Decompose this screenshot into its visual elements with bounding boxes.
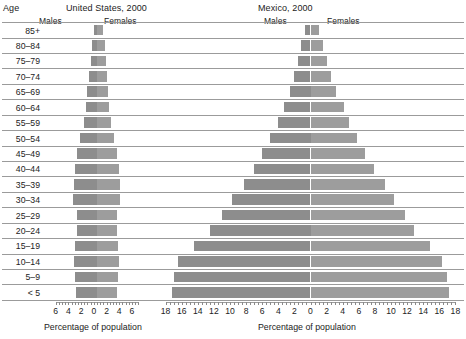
us-female-bar — [97, 225, 117, 236]
age-group-label: 40–44 — [0, 164, 40, 174]
mexico-male-bar — [244, 179, 311, 190]
mexico-female-bar — [311, 256, 442, 267]
axis-tick-label: 10 — [383, 306, 399, 316]
axis-tick-label: 2 — [319, 306, 335, 316]
us-male-bar — [75, 272, 97, 283]
axis-tick — [246, 302, 247, 305]
age-group-label: 70–74 — [0, 72, 40, 82]
age-group-label: 85+ — [0, 26, 40, 36]
mexico-female-bar — [311, 40, 324, 51]
us-male-bar — [77, 148, 97, 159]
row-divider — [2, 300, 464, 301]
age-group-label: 15–19 — [0, 241, 40, 251]
mexico-female-bar — [311, 179, 385, 190]
axis-tick — [371, 302, 372, 305]
axis-tick — [447, 302, 448, 305]
row-divider — [2, 53, 464, 54]
axis-tick-label: 2 — [286, 306, 302, 316]
mexico-female-bar — [311, 56, 327, 67]
us-male-bar — [75, 241, 97, 252]
axis-tick-label: 8 — [367, 306, 383, 316]
axis-tick-label: 18 — [447, 306, 463, 316]
axis-tick — [327, 302, 328, 305]
mexico-female-bar — [311, 287, 449, 298]
us-male-bar — [80, 133, 97, 144]
axis-tick — [274, 302, 275, 305]
us-male-bar — [84, 117, 97, 128]
axis-tick — [391, 302, 392, 305]
us-female-bar — [97, 133, 114, 144]
mexico-female-bar — [311, 210, 405, 221]
axis-tick — [302, 302, 303, 305]
axis-tick — [375, 302, 376, 305]
mexico-female-bar — [311, 86, 337, 97]
pyramid-row: 55–59 — [0, 115, 466, 130]
axis-tick-label: 14 — [190, 306, 206, 316]
mexico-female-bar — [311, 117, 350, 128]
axis-tick — [230, 302, 231, 305]
row-divider — [2, 269, 464, 270]
pyramid-row: 65–69 — [0, 84, 466, 99]
axis-tick-label: 14 — [415, 306, 431, 316]
axis-tick — [399, 302, 400, 305]
axis-tick — [174, 302, 175, 305]
mexico-female-bar — [311, 25, 319, 36]
row-divider — [2, 130, 464, 131]
mexico-female-bar — [311, 272, 448, 283]
us-female-bar — [97, 241, 118, 252]
axis-tick — [266, 302, 267, 305]
axis-tick — [359, 302, 360, 305]
us-female-bar — [97, 210, 117, 221]
axis-tick — [415, 302, 416, 305]
age-group-label: 65–69 — [0, 87, 40, 97]
axis-tick — [194, 302, 195, 305]
row-divider — [2, 68, 464, 69]
us-female-bar — [97, 102, 109, 113]
age-group-label: 45–49 — [0, 149, 40, 159]
pyramid-row: 70–74 — [0, 68, 466, 83]
row-divider — [2, 38, 464, 39]
row-divider — [2, 161, 464, 162]
axis-tick-label: 12 — [399, 306, 415, 316]
us-female-bar — [97, 25, 103, 36]
axis-tick — [407, 302, 408, 305]
axis-tick — [355, 302, 356, 305]
us-male-bar — [76, 287, 97, 298]
row-divider — [2, 22, 464, 23]
axis-tick — [190, 302, 191, 305]
row-divider — [2, 115, 464, 116]
mexico-male-bar — [222, 210, 311, 221]
axis-tick — [182, 302, 183, 305]
mexico-male-bar — [172, 287, 310, 298]
pyramid-row: 20–24 — [0, 223, 466, 238]
population-pyramid-chart: Age United States, 2000 Mexico, 2000 Mal… — [0, 0, 466, 339]
mexico-male-bar — [294, 71, 310, 82]
age-group-label: < 5 — [0, 288, 40, 298]
mexico-male-bar — [254, 164, 310, 175]
axis-tick — [198, 302, 199, 305]
us-male-bar — [74, 179, 97, 190]
us-male-bar — [74, 256, 97, 267]
axis-tick — [270, 302, 271, 305]
mexico-male-bar — [262, 148, 310, 159]
us-female-bar — [97, 179, 120, 190]
axis-tick-label: 6 — [254, 306, 270, 316]
pyramid-row: 40–44 — [0, 161, 466, 176]
axis-tick — [242, 302, 243, 305]
axis-tick — [351, 302, 352, 305]
age-group-label: 30–34 — [0, 195, 40, 205]
axis-tick — [218, 302, 219, 305]
us-axis-caption: Percentage of population — [44, 322, 142, 332]
axis-tick — [298, 302, 299, 305]
axis-tick-label: 16 — [431, 306, 447, 316]
mexico-female-bar — [311, 194, 395, 205]
pyramid-row: 45–49 — [0, 146, 466, 161]
axis-tick-label: 6 — [351, 306, 367, 316]
axis-tick — [226, 302, 227, 305]
us-female-bar — [97, 256, 119, 267]
us-male-bar — [87, 86, 97, 97]
axis-tick — [363, 302, 364, 305]
axis-tick — [222, 302, 223, 305]
axis-tick — [210, 302, 211, 305]
axis-tick — [387, 302, 388, 305]
